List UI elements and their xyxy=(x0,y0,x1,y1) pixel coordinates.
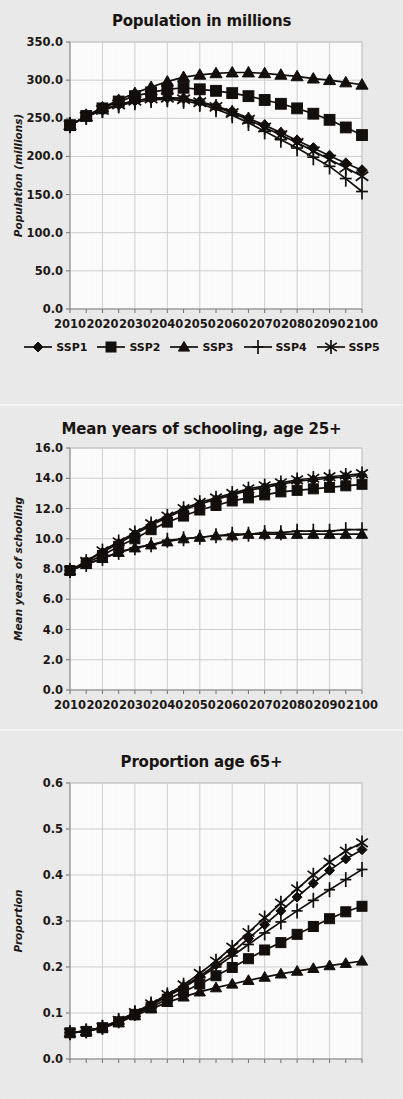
y-tick-label: 0.6 xyxy=(43,776,63,790)
y-tick-label: 10.0 xyxy=(35,532,63,546)
x-tick-label: 2030 xyxy=(119,698,151,712)
y-tick-label: 100.0 xyxy=(27,226,63,240)
x-tick-label: 2060 xyxy=(216,317,248,331)
y-tick-label: 0.4 xyxy=(43,868,63,882)
proportion-svg: 0.00.10.20.30.40.50.6Proportion xyxy=(0,771,403,1099)
x-tick-label: 2020 xyxy=(86,317,118,331)
y-tick-label: 0.3 xyxy=(43,914,63,928)
asterisk-marker-icon xyxy=(316,340,346,354)
legend-item-ssp3[interactable]: SSP3 xyxy=(169,340,233,354)
y-tick-label: 4.0 xyxy=(43,623,63,637)
y-tick-label: 50.0 xyxy=(35,264,63,278)
y-tick-label: 2.0 xyxy=(43,653,63,667)
x-tick-label: 2050 xyxy=(184,317,216,331)
x-tick-label: 2100 xyxy=(346,317,378,331)
legend-label: SSP5 xyxy=(349,341,380,354)
population-chart-plot: 0.050.0100.0150.0200.0250.0300.0350.0201… xyxy=(0,30,403,335)
y-tick-label: 0.0 xyxy=(43,1052,63,1066)
y-tick-label: 8.0 xyxy=(43,562,63,576)
triangle-marker-icon xyxy=(169,340,199,354)
legend-label: SSP1 xyxy=(56,341,87,354)
y-tick-label: 0.2 xyxy=(43,960,63,974)
legend-label: SSP3 xyxy=(202,341,233,354)
legend-label: SSP2 xyxy=(129,341,160,354)
proportion-chart-plot: 0.00.10.20.30.40.50.6Proportion xyxy=(0,771,403,1099)
chart-legend: SSP1SSP2SSP3SSP4SSP5 xyxy=(0,340,403,354)
x-tick-label: 2090 xyxy=(314,317,346,331)
page-title-population: Population in millions xyxy=(0,0,403,30)
page-title-proportion: Proportion age 65+ xyxy=(0,731,403,771)
y-tick-label: 250.0 xyxy=(27,111,63,125)
square-marker-icon xyxy=(96,340,126,354)
x-tick-label: 2040 xyxy=(151,698,183,712)
y-tick-label: 350.0 xyxy=(27,35,63,49)
chart-panel-schooling: Mean years of schooling, age 25+ 0.02.04… xyxy=(0,404,403,729)
y-tick-label: 0.5 xyxy=(43,822,63,836)
y-tick-label: 200.0 xyxy=(27,149,63,163)
y-tick-label: 0.1 xyxy=(43,1006,63,1020)
y-tick-label: 6.0 xyxy=(43,592,63,606)
diamond-marker-icon xyxy=(23,340,53,354)
y-axis-title: Mean years of schooling xyxy=(12,497,24,641)
legend-label: SSP4 xyxy=(276,341,307,354)
x-tick-label: 2030 xyxy=(119,317,151,331)
y-tick-label: 300.0 xyxy=(27,73,63,87)
y-tick-label: 16.0 xyxy=(35,441,63,455)
x-tick-label: 2080 xyxy=(281,317,313,331)
x-tick-label: 2060 xyxy=(216,698,248,712)
x-tick-label: 2010 xyxy=(54,317,86,331)
population-svg: 0.050.0100.0150.0200.0250.0300.0350.0201… xyxy=(0,30,403,335)
y-tick-label: 0.0 xyxy=(43,683,63,697)
plus-marker-icon xyxy=(243,340,273,354)
x-tick-label: 2050 xyxy=(184,698,216,712)
y-tick-label: 14.0 xyxy=(35,471,63,485)
y-tick-label: 0.0 xyxy=(43,302,63,316)
x-tick-label: 2090 xyxy=(314,698,346,712)
chart-panel-proportion: Proportion age 65+ 0.00.10.20.30.40.50.6… xyxy=(0,729,403,1099)
legend-item-ssp4[interactable]: SSP4 xyxy=(243,340,307,354)
schooling-svg: 0.02.04.06.08.010.012.014.016.0201020202… xyxy=(0,438,403,728)
x-tick-label: 2040 xyxy=(151,317,183,331)
y-tick-label: 12.0 xyxy=(35,502,63,516)
y-axis-title: Proportion xyxy=(12,890,24,953)
x-tick-label: 2010 xyxy=(54,698,86,712)
x-tick-label: 2020 xyxy=(86,698,118,712)
schooling-chart-plot: 0.02.04.06.08.010.012.014.016.0201020202… xyxy=(0,438,403,728)
legend-item-ssp2[interactable]: SSP2 xyxy=(96,340,160,354)
page-title-schooling: Mean years of schooling, age 25+ xyxy=(0,406,403,438)
x-tick-label: 2080 xyxy=(281,698,313,712)
x-tick-label: 2070 xyxy=(249,317,281,331)
x-tick-label: 2070 xyxy=(249,698,281,712)
legend-item-ssp1[interactable]: SSP1 xyxy=(23,340,87,354)
chart-panel-population: Population in millions 0.050.0100.0150.0… xyxy=(0,0,403,404)
y-axis-title: Population (millions) xyxy=(12,114,24,237)
y-tick-label: 150.0 xyxy=(27,188,63,202)
legend-item-ssp5[interactable]: SSP5 xyxy=(316,340,380,354)
x-tick-label: 2100 xyxy=(346,698,378,712)
